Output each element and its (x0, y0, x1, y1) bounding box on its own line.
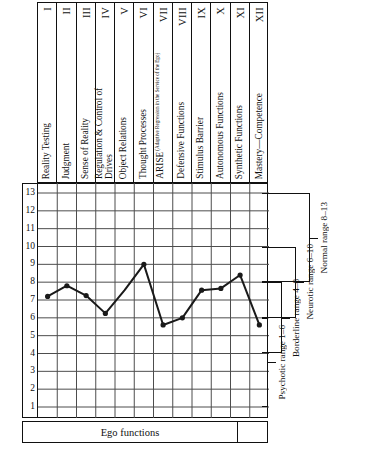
column-numeral-text: X (215, 7, 226, 15)
column-numeral-text: III (80, 7, 91, 18)
column-header-xi: XISynthetic Functions (231, 3, 250, 182)
column-header-ii: IIJudgment (57, 3, 76, 182)
data-point-VIII (180, 315, 185, 320)
ego-functions-caption-inner: Ego functions (23, 422, 238, 442)
column-label: Sense of Reality (77, 49, 95, 179)
column-numeral-text: I (42, 7, 53, 11)
column-sublabel-text: (Adaptive Regression in the Service of t… (155, 53, 169, 151)
column-label-text: Reality Testing (42, 123, 52, 179)
ego-functions-caption-band: Ego functions (22, 421, 268, 443)
column-label: Reality Testing (38, 49, 56, 179)
column-numeral-text: IV (99, 7, 110, 18)
plot-area (37, 183, 268, 418)
profile-line (48, 264, 260, 325)
column-numeral: IV (99, 7, 110, 51)
column-label-text: Sense of Reality (81, 118, 91, 179)
column-header-vii: VIIARISE(Adaptive Regression in the Serv… (154, 3, 173, 182)
column-label: Synthetic Functions (231, 49, 249, 179)
column-label: ARISE(Adaptive Regression in the Service… (154, 49, 172, 179)
column-numeral: VI (138, 7, 149, 51)
column-header-table: IReality TestingIIJudgmentIIISense of Re… (37, 2, 268, 183)
column-header-i: IReality Testing (38, 3, 57, 182)
column-header-xii: XIIMastery—Competence (250, 3, 269, 182)
data-point-III (84, 293, 89, 298)
column-label: Judgment (57, 49, 75, 179)
column-label-text: Stimulus Barrier (196, 117, 206, 179)
column-label: Regulation & Control of Drives (96, 49, 114, 179)
data-point-I (45, 294, 50, 299)
column-numeral: VII (157, 7, 168, 51)
column-numeral-text: XII (254, 7, 265, 22)
data-point-IX (199, 288, 204, 293)
column-header-iii: IIISense of Reality (77, 3, 96, 182)
column-label-text: Thought Processes (139, 109, 149, 179)
data-point-VI (141, 262, 146, 267)
data-point-XI (238, 272, 243, 277)
column-label: Autonomous Functions (211, 49, 229, 179)
column-numeral-text: VI (138, 7, 149, 18)
column-label: Thought Processes (134, 49, 152, 179)
column-numeral: III (80, 7, 91, 51)
column-label: Stimulus Barrier (192, 49, 210, 179)
data-point-VII (161, 322, 166, 327)
column-header-vi: VIThought Processes (134, 3, 153, 182)
column-numeral: X (215, 7, 226, 51)
column-label-text: Regulation & Control of Drives (95, 79, 115, 179)
column-header-x: XAutonomous Functions (211, 3, 230, 182)
range-bracket-bar (262, 193, 310, 282)
column-numeral-text: VIII (176, 7, 187, 26)
column-numeral-text: XI (234, 7, 245, 18)
column-header-iv: IVRegulation & Control of Drives (96, 3, 115, 182)
range-bracket-stub (296, 282, 304, 283)
column-numeral: II (61, 7, 72, 51)
column-label: Defensive Functions (173, 49, 191, 179)
column-label-text: Autonomous Functions (216, 92, 226, 179)
column-label: Object Relations (115, 49, 133, 179)
column-numeral-text: V (119, 7, 130, 15)
range-bracket-stub (268, 362, 276, 363)
column-numeral-text: II (61, 7, 72, 14)
column-label-text: Defensive Functions (177, 102, 187, 179)
range-bracket-stub (310, 238, 318, 239)
column-label-text: Mastery—Competence (255, 93, 265, 179)
ego-functions-label: Ego functions (101, 427, 160, 438)
column-numeral-text: IX (196, 7, 207, 18)
column-numeral: VIII (176, 7, 187, 51)
column-numeral: V (119, 7, 130, 51)
column-numeral: XII (254, 7, 265, 51)
column-label-text: Judgment (62, 143, 72, 179)
range-bracket-stub (282, 318, 290, 319)
column-numeral-text: VII (157, 7, 168, 22)
column-numeral: XI (234, 7, 245, 51)
column-header-ix: IXStimulus Barrier (192, 3, 211, 182)
column-label-text: Synthetic Functions (235, 105, 245, 179)
column-label-text: Object Relations (119, 117, 129, 179)
column-numeral: I (42, 7, 53, 51)
data-point-II (64, 283, 69, 288)
range-brackets: Psychotic range 1–6Borderline range 4–8N… (262, 183, 389, 445)
data-point-IV (103, 311, 108, 316)
profile-line-series (38, 183, 269, 418)
column-numeral: IX (196, 7, 207, 51)
column-header-v: VObject Relations (115, 3, 134, 182)
data-point-X (218, 286, 223, 291)
range-bracket-label: Normal range 8–13 (319, 202, 329, 273)
column-header-viii: VIIIDefensive Functions (173, 3, 192, 182)
ego-function-profile-figure: IReality TestingIIJudgmentIIISense of Re… (0, 0, 389, 459)
column-label: Mastery—Competence (250, 49, 269, 179)
column-label-text: ARISE (155, 152, 165, 179)
